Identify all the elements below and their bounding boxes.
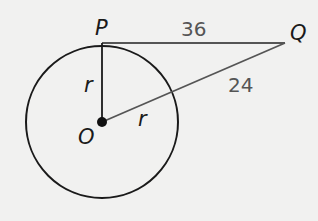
- label-P: P: [95, 16, 108, 40]
- secant-segment-OQ: [102, 43, 285, 122]
- tangent-diagram: P Q O 36 24 r r: [0, 0, 318, 221]
- label-Q: Q: [290, 21, 307, 45]
- label-r-slanted: r: [138, 107, 148, 131]
- center-point: [97, 117, 107, 127]
- label-r-vertical: r: [84, 73, 94, 97]
- label-36: 36: [181, 17, 206, 41]
- label-24: 24: [228, 73, 253, 97]
- label-O: O: [78, 125, 95, 149]
